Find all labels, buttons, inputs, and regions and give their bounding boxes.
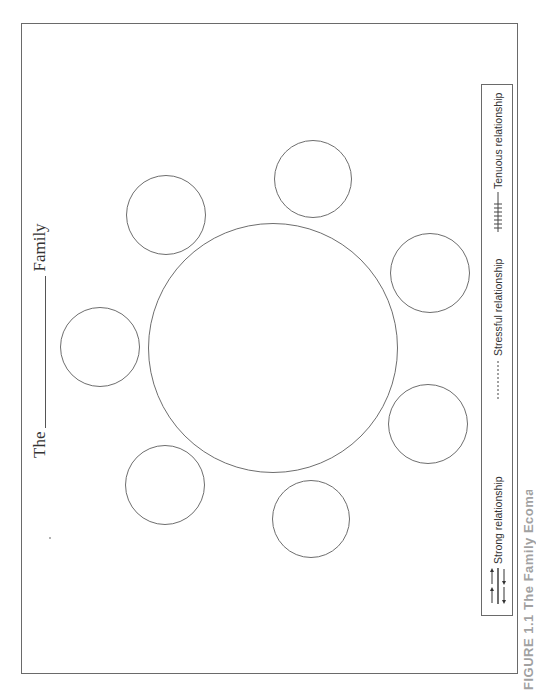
satellite-circle-bottom-left[interactable] [125, 445, 205, 525]
title-suffix: Family [30, 223, 50, 271]
legend-label-stressful: Stressful relationship [492, 259, 504, 356]
figure-caption: FIGURE 1.1 The Family Ecomap [521, 490, 537, 690]
legend-item-stressful: Stressful relationship [482, 259, 514, 399]
family-name-blank[interactable] [44, 276, 46, 428]
satellite-circle-right-upper[interactable] [390, 233, 470, 313]
stressful-relationship-dashed-line-icon [493, 359, 503, 399]
legend-label-tenuous: Tenuous relationship [492, 93, 504, 189]
legend-box: Strong relationship Stressful relationsh… [481, 84, 513, 616]
scan-speck [49, 537, 51, 539]
satellite-circle-top-left[interactable] [126, 175, 206, 255]
worksheet-title: The Family [26, 198, 50, 458]
satellite-circle-bottom-right[interactable] [272, 480, 350, 558]
center-family-circle[interactable] [148, 223, 398, 473]
title-prefix: The [30, 432, 50, 458]
satellite-circle-left[interactable] [60, 307, 140, 387]
satellite-circle-right-lower[interactable] [388, 384, 468, 464]
satellite-circle-top-right[interactable] [274, 140, 352, 218]
strong-relationship-arrows-icon [487, 567, 509, 605]
ecomap-worksheet: The Family [0, 0, 537, 690]
legend-label-strong: Strong relationship [492, 476, 504, 564]
tenuous-relationship-hatched-line-icon [492, 192, 504, 232]
legend-item-tenuous: Tenuous relationship [482, 93, 514, 232]
legend-item-strong: Strong relationship [482, 476, 514, 605]
